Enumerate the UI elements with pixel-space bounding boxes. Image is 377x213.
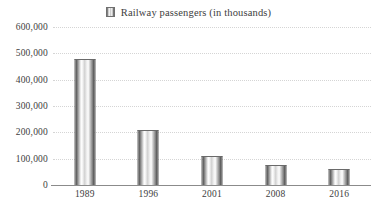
bar-2001[interactable] [201,156,222,185]
y-axis-tick-label: 400,000 [0,75,48,85]
x-axis-tick-label-2001: 2001 [202,189,222,199]
x-axis-tick-label-1996: 1996 [138,189,158,199]
railway-passengers-bar-chart: Railway passengers (in thousands) 0100,0… [0,0,377,213]
bar-1989[interactable] [74,59,95,185]
y-axis-tick-label: 300,000 [0,101,48,111]
chart-legend: Railway passengers (in thousands) [0,3,377,21]
x-axis-tick-labels: 19891996200120082016 [53,189,371,207]
y-axis-tick-label: 500,000 [0,48,48,58]
legend-label: Railway passengers (in thousands) [121,7,271,18]
bar-slot [244,27,308,185]
y-axis-tick-label: 600,000 [0,22,48,32]
x-axis-line [51,185,371,186]
bar-slot [117,27,181,185]
x-axis-tick-label-1989: 1989 [75,189,95,199]
bar-series [53,27,371,185]
y-axis-tick-label: 0 [0,180,48,190]
y-axis-tick-label: 200,000 [0,127,48,137]
bar-1996[interactable] [138,130,159,185]
bar-2008[interactable] [265,165,286,185]
bar-2016[interactable] [329,169,350,185]
bar-slot [180,27,244,185]
bar-slot [53,27,117,185]
y-axis-tick-label: 100,000 [0,154,48,164]
x-axis-tick-label-2008: 2008 [266,189,286,199]
x-axis-tick-label-2016: 2016 [329,189,349,199]
bar-slot [307,27,371,185]
bar-series-swatch-icon [106,7,115,17]
